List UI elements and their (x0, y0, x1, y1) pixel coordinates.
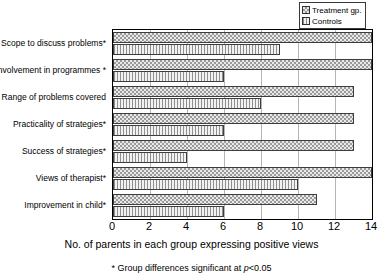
category-axis-labels: Scope to discuss problems*Involvement in… (0, 29, 109, 218)
category-group (113, 84, 372, 111)
x-tick-label: 2 (146, 220, 152, 233)
legend-swatch-vertical-lines-icon (302, 17, 310, 25)
bar-controls (113, 206, 224, 218)
bar-treatment-group (113, 59, 372, 71)
category-label: Views of therapist* (36, 173, 106, 183)
bar-controls (113, 152, 187, 164)
x-tick-label: 10 (291, 220, 303, 233)
bar-controls (113, 179, 298, 191)
category-label: Practicality of strategies* (13, 119, 106, 129)
x-tick-label: 4 (183, 220, 189, 233)
legend-swatch-checkerboard-icon (302, 6, 310, 14)
chart-legend: Treatment gp. Controls (299, 2, 366, 29)
bar-treatment-group (113, 86, 354, 98)
bar-series-container (113, 30, 372, 219)
legend-label-treatment: Treatment gp. (312, 6, 362, 15)
x-axis-title: No. of parents in each group expressing … (0, 238, 383, 251)
x-tick-label: 6 (220, 220, 226, 233)
x-tick-label: 14 (365, 220, 377, 233)
category-group (113, 57, 372, 84)
category-label: Scope to discuss problems* (1, 38, 106, 48)
category-label: Involvement in programmes * (0, 65, 106, 75)
category-group (113, 165, 372, 192)
footnote-suffix: <0.05 (249, 263, 272, 273)
bar-treatment-group (113, 32, 372, 44)
category-label: Range of problems covered (2, 92, 106, 102)
category-group (113, 138, 372, 165)
category-group (113, 192, 372, 219)
footnote-prefix: * Group differences significant at (111, 263, 243, 273)
category-group (113, 111, 372, 138)
bar-treatment-group (113, 140, 354, 152)
category-label: Success of strategies* (22, 146, 106, 156)
x-tick-label: 0 (109, 220, 115, 233)
bar-treatment-group (113, 194, 317, 206)
bar-controls (113, 44, 280, 56)
x-axis-tick-labels: 02468101214 (112, 220, 371, 236)
legend-item-controls: Controls (302, 16, 362, 26)
x-tick-label: 8 (257, 220, 263, 233)
plot-area (112, 29, 373, 220)
bar-controls (113, 71, 224, 83)
bar-controls (113, 98, 261, 110)
bar-treatment-group (113, 167, 372, 179)
bar-controls (113, 125, 224, 137)
legend-item-treatment: Treatment gp. (302, 5, 362, 15)
category-label: Improvement in child* (24, 200, 106, 210)
chart-footnote: * Group differences significant at p<0.0… (0, 262, 383, 274)
x-tick-label: 12 (328, 220, 340, 233)
category-group (113, 30, 372, 57)
legend-label-controls: Controls (312, 17, 342, 26)
bar-treatment-group (113, 113, 354, 125)
bar-chart: Treatment gp. Controls Scope to discuss … (0, 0, 383, 278)
